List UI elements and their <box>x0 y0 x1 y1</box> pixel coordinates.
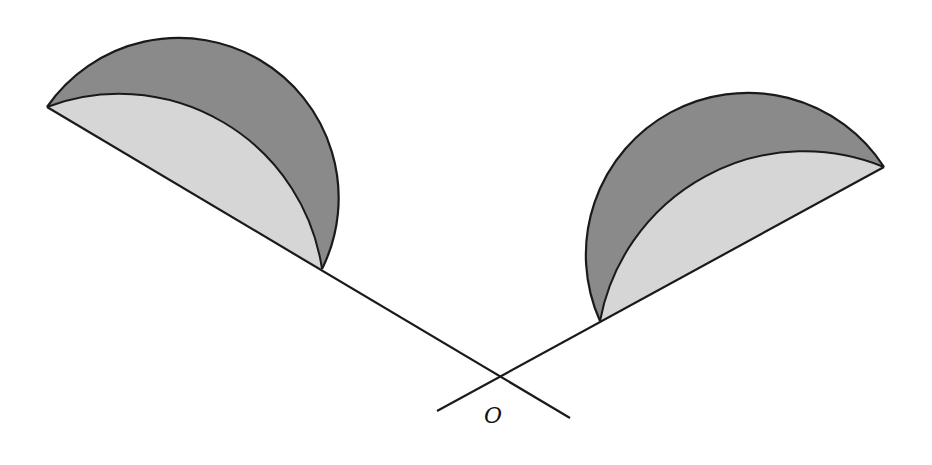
right-semicircle <box>586 93 884 321</box>
geometry-diagram <box>0 0 932 465</box>
point-o-label: O <box>484 405 502 427</box>
left-semicircle <box>47 38 339 269</box>
